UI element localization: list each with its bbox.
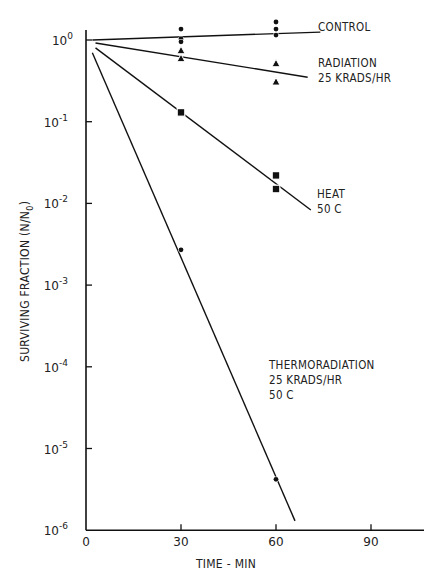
x-axis-label: TIME - MIN — [195, 557, 256, 571]
triangle-marker — [272, 59, 280, 67]
circle-marker — [179, 27, 184, 32]
y-axis-label: SURVIVING FRACTION (N/N0) — [18, 201, 35, 362]
circle-marker — [274, 20, 279, 25]
y-axis-label-main: SURVIVING FRACTION (N/N — [18, 211, 32, 362]
square-marker — [272, 172, 280, 180]
x-tick-label: 90 — [363, 535, 378, 549]
y-tick-label: 10-5 — [44, 440, 68, 457]
square-marker — [177, 109, 185, 117]
fit-line-0 — [92, 32, 320, 40]
series-labels: CONTROLRADIATION25 KRADS/HRHEAT50 CTHERM… — [268, 20, 391, 402]
circle-marker — [274, 27, 279, 32]
fit-lines — [92, 32, 320, 521]
x-tick-label: 60 — [268, 535, 283, 549]
series-label: HEAT — [317, 187, 345, 201]
y-tick-label: 100 — [52, 31, 73, 48]
circle-marker — [274, 33, 279, 38]
triangle-marker — [177, 46, 185, 54]
square-marker — [272, 185, 280, 193]
y-tick-label: 10-4 — [44, 358, 69, 375]
y-tick-label: 10-2 — [44, 194, 68, 211]
x-tick-label: 30 — [173, 535, 188, 549]
circle-marker — [274, 477, 279, 482]
series-label: THERMORADIATION — [268, 358, 375, 372]
x-tick-label: 0 — [82, 535, 90, 549]
circle-marker — [179, 247, 184, 252]
series-label: 25 KRADS/HR — [318, 71, 391, 85]
data-markers — [177, 19, 280, 482]
series-label: RADIATION — [318, 56, 377, 70]
series-label: 50 C — [317, 202, 342, 216]
axes: 10010-110-210-310-410-510-60306090 — [44, 30, 424, 549]
y-tick-label: 10-6 — [44, 521, 69, 538]
circle-marker — [179, 39, 184, 44]
triangle-marker — [272, 78, 280, 86]
y-tick-label: 10-1 — [44, 113, 68, 130]
y-tick-label: 10-3 — [44, 276, 68, 293]
series-label: 50 C — [269, 388, 294, 402]
series-label: CONTROL — [318, 20, 371, 34]
y-axis-label-close: ) — [18, 201, 32, 206]
series-label: 25 KRADS/HR — [269, 373, 342, 387]
survival-chart: 10010-110-210-310-410-510-60306090 CONTR… — [0, 0, 440, 582]
fit-line-3 — [92, 53, 295, 521]
